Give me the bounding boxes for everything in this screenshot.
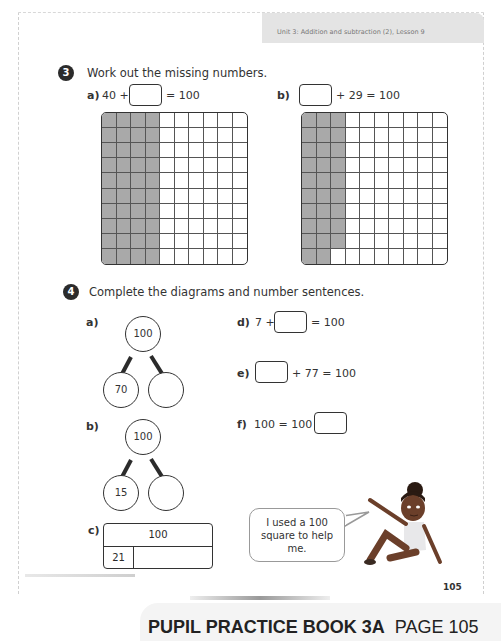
q4b-part-right-input[interactable] — [148, 475, 184, 511]
grid-cell — [218, 158, 233, 173]
grid-cell — [146, 219, 161, 234]
grid-cell — [331, 189, 346, 204]
question-4-number: 4 — [63, 284, 79, 300]
girl-character-illustration — [360, 482, 450, 572]
q3b-answer-box[interactable] — [299, 84, 332, 106]
q4d-label: d) — [237, 316, 250, 329]
grid-cell — [160, 113, 175, 128]
grid-cell — [218, 234, 233, 249]
grid-cell — [160, 128, 175, 143]
grid-cell — [302, 249, 317, 264]
grid-cell — [175, 219, 190, 234]
grid-cell — [204, 143, 219, 158]
grid-cell — [389, 204, 404, 219]
grid-cell — [360, 173, 375, 188]
grid-cell — [131, 189, 146, 204]
grid-cell — [131, 234, 146, 249]
grid-cell — [360, 158, 375, 173]
grid-cell — [102, 158, 117, 173]
grid-cell — [218, 219, 233, 234]
grid-cell — [389, 219, 404, 234]
unit-lesson-header: Unit 3: Addition and subtraction (2), Le… — [277, 28, 425, 36]
grid-cell — [317, 249, 332, 264]
grid-cell — [233, 158, 248, 173]
grid-cell — [375, 219, 390, 234]
grid-cell — [433, 204, 448, 219]
hundred-square-b — [301, 112, 448, 265]
q4a-part-right-input[interactable] — [148, 372, 184, 408]
q4d-answer-box[interactable] — [274, 311, 307, 333]
grid-cell — [375, 189, 390, 204]
grid-cell — [233, 234, 248, 249]
question-3-number: 3 — [58, 65, 74, 81]
grid-cell — [233, 219, 248, 234]
grid-cell — [433, 113, 448, 128]
grid-cell — [433, 234, 448, 249]
q4e-answer-box[interactable] — [255, 361, 288, 383]
grid-cell — [331, 234, 346, 249]
grid-cell — [160, 249, 175, 264]
grid-cell — [302, 189, 317, 204]
grid-cell — [146, 173, 161, 188]
grid-cell — [317, 158, 332, 173]
grid-cell — [346, 143, 361, 158]
grid-cell — [375, 204, 390, 219]
grid-cell — [175, 128, 190, 143]
grid-cell — [160, 143, 175, 158]
q3a-after: = 100 — [166, 89, 200, 102]
q3b-label: b) — [277, 89, 290, 102]
grid-cell — [418, 189, 433, 204]
grid-cell — [131, 128, 146, 143]
grid-cell — [389, 143, 404, 158]
grid-cell — [131, 113, 146, 128]
grid-cell — [160, 158, 175, 173]
footer-title: PUPIL PRACTICE BOOK 3A PAGE 105 — [148, 617, 478, 638]
q3a-before: 40 + — [102, 89, 129, 102]
grid-cell — [360, 234, 375, 249]
grid-cell — [302, 158, 317, 173]
grid-cell — [102, 204, 117, 219]
grid-cell — [346, 219, 361, 234]
q4c-label: c) — [88, 524, 100, 537]
grid-cell — [175, 173, 190, 188]
grid-cell — [146, 113, 161, 128]
grid-cell — [360, 204, 375, 219]
grid-cell — [389, 113, 404, 128]
grid-cell — [117, 113, 132, 128]
bar-part-left: 21 — [104, 547, 134, 568]
grid-cell — [302, 143, 317, 158]
q3a-answer-box[interactable] — [129, 84, 162, 106]
grid-cell — [418, 113, 433, 128]
speech-bubble: I used a 100 square to help me. — [249, 508, 345, 562]
grid-cell — [102, 143, 117, 158]
q4d-after: = 100 — [311, 316, 345, 329]
grid-cell — [102, 249, 117, 264]
grid-cell — [302, 173, 317, 188]
grid-cell — [375, 158, 390, 173]
grid-cell — [233, 128, 248, 143]
grid-cell — [433, 219, 448, 234]
question-3-title: Work out the missing numbers. — [87, 66, 267, 80]
grid-cell — [218, 204, 233, 219]
bar-part-right-input[interactable] — [134, 547, 212, 568]
q3a-label: a) — [87, 89, 99, 102]
grid-cell — [404, 113, 419, 128]
q4f-answer-box[interactable] — [314, 412, 347, 434]
grid-cell — [331, 249, 346, 264]
grid-cell — [117, 173, 132, 188]
q4b-whole-circle: 100 — [125, 419, 161, 455]
q4e-label: e) — [237, 367, 250, 380]
grid-cell — [117, 219, 132, 234]
grid-cell — [418, 128, 433, 143]
grid-cell — [175, 204, 190, 219]
grid-cell — [389, 234, 404, 249]
q4f-label: f) — [237, 418, 247, 431]
grid-cell — [131, 249, 146, 264]
grid-cell — [317, 204, 332, 219]
q4d-before: 7 + — [255, 316, 275, 329]
grid-cell — [189, 143, 204, 158]
grid-cell — [175, 234, 190, 249]
grid-cell — [146, 204, 161, 219]
grid-cell — [131, 158, 146, 173]
grid-cell — [218, 189, 233, 204]
